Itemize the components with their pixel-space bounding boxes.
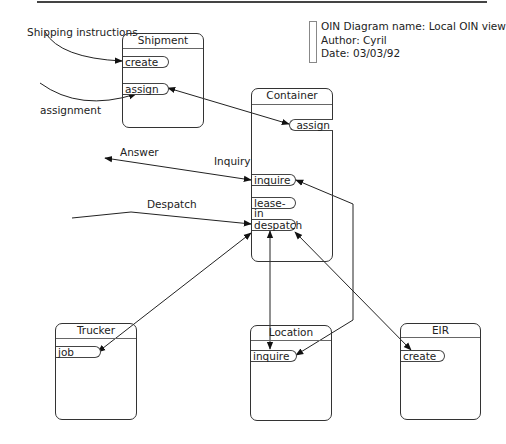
object-eir[interactable]: EIR create xyxy=(400,323,481,420)
object-shipment[interactable]: Shipment create assign xyxy=(122,33,204,128)
operation-inquire[interactable]: inquire xyxy=(252,174,296,186)
object-location[interactable]: Location inquire xyxy=(250,325,332,421)
operation-create[interactable]: create xyxy=(401,350,445,362)
operation-assign[interactable]: assign xyxy=(123,83,169,95)
label-assignment: assignment xyxy=(40,104,101,116)
object-container[interactable]: Container assign inquire lease-in despat… xyxy=(251,88,333,262)
object-title: Trucker xyxy=(56,324,136,339)
object-trucker[interactable]: Trucker job xyxy=(55,323,137,420)
label-answer: Answer xyxy=(120,146,159,158)
object-title: Container xyxy=(252,89,332,105)
label-despatch: Despatch xyxy=(147,198,197,210)
object-title: EIR xyxy=(401,324,480,338)
operation-create[interactable]: create xyxy=(123,56,169,68)
operation-inquire[interactable]: inquire xyxy=(251,350,297,362)
operation-assign[interactable]: assign xyxy=(289,119,333,131)
label-shipping-instructions: Shipping instructions xyxy=(27,26,138,38)
label-inquiry: Inquiry xyxy=(214,155,251,167)
operation-despatch[interactable]: despatch xyxy=(252,219,296,231)
link-despatch xyxy=(72,212,251,224)
operation-lease-in[interactable]: lease-in xyxy=(252,197,296,209)
object-title: Location xyxy=(251,326,331,341)
operation-job[interactable]: job xyxy=(56,346,101,358)
